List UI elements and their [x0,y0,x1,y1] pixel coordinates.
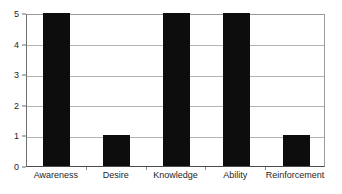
x-tick-label: Reinforcement [266,170,325,181]
x-tick-mark [205,167,206,170]
x-tick-mark [265,167,266,170]
x-tick-mark [146,167,147,170]
y-tick-label: 5 [14,10,19,19]
bar [223,13,250,166]
bar [103,135,130,166]
y-tick-label: 0 [14,163,19,172]
x-tick-mark [86,167,87,170]
y-tick-label: 1 [14,132,19,141]
bar [283,135,310,166]
x-tick-label: Desire [103,170,129,181]
y-axis: 012345 [0,0,26,194]
x-tick-label: Awareness [34,170,78,181]
plot-area [26,14,325,167]
bar [163,13,190,166]
bar [43,13,70,166]
x-tick-label: Ability [223,170,247,181]
y-tick-label: 4 [14,40,19,49]
y-tick-label: 3 [14,71,19,80]
x-axis: AwarenessDesireKnowledgeAbilityReinforce… [26,170,325,186]
y-tick-label: 2 [14,101,19,110]
x-tick-label: Knowledge [153,170,198,181]
bar-chart-figure: 012345 AwarenessDesireKnowledgeAbilityRe… [0,0,342,194]
